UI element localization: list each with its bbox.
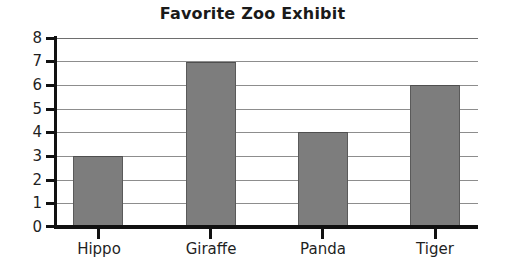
y-tick-5 xyxy=(46,108,55,111)
chart-title: Favorite Zoo Exhibit xyxy=(0,4,505,23)
plot-area xyxy=(57,38,478,227)
y-tick-0 xyxy=(46,225,55,228)
y-tick-7 xyxy=(46,60,55,63)
x-tick-tiger xyxy=(434,228,437,239)
y-tick-2 xyxy=(46,179,55,182)
y-tick-label-6: 6 xyxy=(18,78,42,93)
gridline-7 xyxy=(57,61,478,62)
x-tick-panda xyxy=(321,228,324,239)
y-tick-label-5: 5 xyxy=(18,102,42,117)
y-tick-label-4: 4 xyxy=(18,125,42,140)
y-tick-label-7: 7 xyxy=(18,54,42,69)
y-tick-3 xyxy=(46,155,55,158)
bar-giraffe xyxy=(186,62,236,227)
y-tick-4 xyxy=(46,131,55,134)
x-category-label-giraffe: Giraffe xyxy=(151,241,271,258)
y-tick-label-0: 0 xyxy=(18,220,42,235)
bar-panda xyxy=(298,132,348,227)
y-tick-6 xyxy=(46,84,55,87)
y-tick-1 xyxy=(46,202,55,205)
gridline-8 xyxy=(57,38,478,39)
x-category-label-hippo: Hippo xyxy=(39,241,159,258)
x-category-label-tiger: Tiger xyxy=(375,241,495,258)
bar-chart: Favorite Zoo Exhibit 8 7 6 5 4 3 2 1 0 xyxy=(0,0,505,277)
x-tick-giraffe xyxy=(209,228,212,239)
x-category-label-panda: Panda xyxy=(263,241,383,258)
y-tick-8 xyxy=(46,37,55,40)
y-tick-label-2: 2 xyxy=(18,173,42,188)
bar-tiger xyxy=(410,85,460,227)
y-tick-label-3: 3 xyxy=(18,149,42,164)
y-tick-label-8: 8 xyxy=(18,31,42,46)
bar-hippo xyxy=(73,156,123,227)
x-axis-line xyxy=(54,225,478,229)
y-tick-label-1: 1 xyxy=(18,196,42,211)
x-tick-hippo xyxy=(97,228,100,239)
